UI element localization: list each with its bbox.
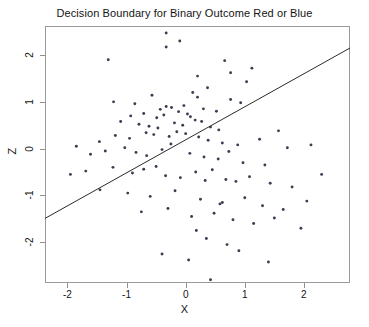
scatter-plot-figure: Decision Boundary for Binary Outcome Red…: [0, 0, 369, 327]
x-tick-mark: [127, 283, 128, 288]
y-tick-label: 1: [24, 95, 35, 109]
x-tick-mark: [304, 283, 305, 288]
y-axis-label: Z: [6, 131, 18, 171]
x-tick-label: 0: [183, 289, 189, 300]
y-tick-mark: [40, 102, 45, 103]
x-tick-label: -1: [122, 289, 131, 300]
x-tick-label: 2: [301, 289, 307, 300]
y-tick-mark: [40, 149, 45, 150]
y-tick-label: -1: [24, 188, 35, 202]
y-tick-label: 2: [24, 48, 35, 62]
y-tick-label: -2: [24, 235, 35, 249]
decision-boundary-line: [45, 48, 350, 218]
x-tick-mark: [186, 283, 187, 288]
y-tick-label: 0: [24, 142, 35, 156]
decision-boundary-layer: [45, 26, 350, 283]
x-tick-mark: [245, 283, 246, 288]
chart-title: Decision Boundary for Binary Outcome Red…: [0, 7, 369, 19]
x-axis-label: X: [0, 303, 369, 315]
plot-area: [45, 26, 350, 283]
y-tick-mark: [40, 55, 45, 56]
y-tick-mark: [40, 242, 45, 243]
x-tick-label: 1: [242, 289, 248, 300]
y-tick-mark: [40, 195, 45, 196]
x-tick-label: -2: [63, 289, 72, 300]
x-tick-mark: [67, 283, 68, 288]
